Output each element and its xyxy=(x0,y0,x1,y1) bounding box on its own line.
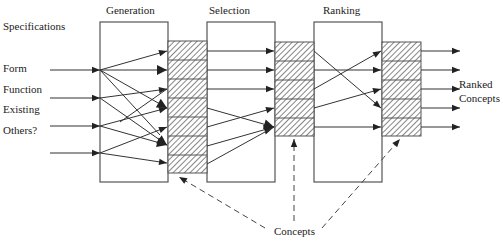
concept-pipeline-diagram: Generation Selection Ranking Specificati… xyxy=(0,0,503,244)
concept-column-3 xyxy=(382,42,421,136)
input-label-form: Form xyxy=(3,62,27,75)
input-label-function: Function xyxy=(3,83,42,96)
input-arrows xyxy=(50,70,100,153)
selection-arrows xyxy=(207,51,274,164)
stage-boxes xyxy=(100,22,382,182)
generation-arrows xyxy=(100,51,167,163)
concept-column-1 xyxy=(168,41,207,173)
ranked-concepts-label-line1: Ranked xyxy=(459,78,493,91)
stage-label-generation: Generation xyxy=(106,4,155,17)
ranked-concepts-label-line2: Concepts xyxy=(459,92,500,105)
concepts-label: Concepts xyxy=(274,225,315,238)
ranking-arrows xyxy=(314,51,381,127)
input-label-existing: Existing xyxy=(3,103,40,116)
ranking-box xyxy=(314,22,382,182)
stage-label-ranking: Ranking xyxy=(323,4,360,17)
diagram-svg xyxy=(0,0,503,244)
input-label-others: Others? xyxy=(3,124,37,137)
concept-column-2 xyxy=(275,42,314,136)
output-arrows xyxy=(421,51,460,127)
stage-label-selection: Selection xyxy=(209,4,250,17)
concept-pointers xyxy=(179,139,400,228)
specifications-heading: Specifications xyxy=(3,20,65,33)
